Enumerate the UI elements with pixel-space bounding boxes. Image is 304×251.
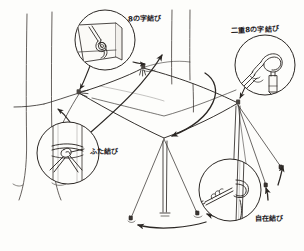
callout-double-figure-eight [235, 35, 295, 96]
label-taut-line-hitch: 自在結び [255, 215, 284, 223]
illustration-canvas: 8の字結び 二重8の字結び ふた結び 自在結び [0, 0, 304, 251]
label-double-figure-eight-knot: 二重8の字結び [231, 25, 279, 34]
callout-figure-eight [75, 10, 135, 70]
label-figure-eight-knot: 8の字結び [128, 15, 162, 23]
label-two-half-hitches: ふた結び [90, 148, 119, 156]
stake-right-mid [264, 183, 267, 187]
